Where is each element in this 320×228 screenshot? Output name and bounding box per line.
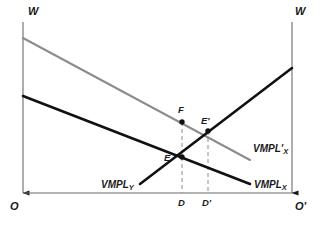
point-label-f: F xyxy=(178,105,184,115)
point-label-e-prime: E' xyxy=(201,116,210,126)
curve-label-sub-1: X xyxy=(282,183,287,192)
curve-vmplx xyxy=(23,96,250,184)
curve-label-vmpl-x-prime: VMPL'X xyxy=(253,144,288,154)
point-marker-e xyxy=(179,154,184,159)
curve-label-base-1: VMPL xyxy=(254,179,282,190)
curve-label-vmpl-x: VMPLX xyxy=(254,180,287,190)
curve-vmply xyxy=(140,68,292,184)
x-axis-tick-label-d-prime: D' xyxy=(202,198,211,208)
curve-lines xyxy=(23,38,292,184)
left-origin-label: O xyxy=(10,201,19,212)
curve-label-base-0: VMPL' xyxy=(253,143,283,154)
dashed-guide-lines xyxy=(182,122,208,193)
curve-vmpl-primex xyxy=(23,38,250,160)
left-axis-label: W xyxy=(28,6,38,17)
curve-label-vmpl-y: VMPLY xyxy=(101,180,134,190)
point-marker-eprime xyxy=(205,128,210,133)
diagram-canvas xyxy=(0,0,320,228)
point-marker-f xyxy=(179,119,184,124)
curve-label-sub-0: X xyxy=(283,147,288,156)
curve-label-sub-2: Y xyxy=(129,183,134,192)
right-axis-label: W xyxy=(295,6,305,17)
economics-diagram: W W O O' E E' F D D' VMPL'X VMPLX VMPLY xyxy=(0,0,320,228)
curve-label-base-2: VMPL xyxy=(101,179,129,190)
x-axis-tick-label-d: D xyxy=(178,198,185,208)
point-label-e: E xyxy=(164,153,170,163)
right-origin-label: O' xyxy=(295,201,306,212)
